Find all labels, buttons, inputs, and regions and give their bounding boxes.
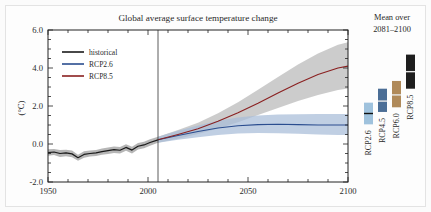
y-tick-label: -2.0 [29,177,43,187]
legend-label-rcp26: RCP2.6 [89,60,113,69]
x-tick-label: 2050 [239,186,256,196]
y-tick-label: 2.0 [32,101,43,111]
side-panel-title-line2: 2081–2100 [373,25,411,34]
y-axis-label: (°C) [16,100,26,115]
y-tick-label: 6.0 [32,25,43,35]
x-tick-label: 1950 [39,186,56,196]
side-panel-bars: RCP2.6RCP4.5RCP6.0RCP8.5 [364,55,416,156]
side-panel-title-line1: Mean over [374,13,410,22]
figure-container: Global average surface temperature chang… [0,0,431,212]
temperature-projection-chart: Global average surface temperature chang… [0,0,431,212]
bar-label-rcp60: RCP6.0 [393,113,402,138]
legend-label-rcp85: RCP8.5 [89,72,113,81]
legend-label-historical: historical [89,48,117,57]
y-tick-label: 0.0 [32,139,43,149]
bar-rcp45 [378,89,387,112]
y-tick-label: 4.0 [32,63,43,73]
x-tick-label: 2000 [139,186,156,196]
chart-title: Global average surface temperature chang… [118,13,277,23]
bar-label-rcp45: RCP4.5 [379,118,388,143]
bar-label-rcp85: RCP8.5 [407,95,416,120]
x-tick-label: 2100 [339,186,356,196]
bar-label-rcp26: RCP2.6 [365,130,374,155]
bar-rcp60 [392,81,401,107]
